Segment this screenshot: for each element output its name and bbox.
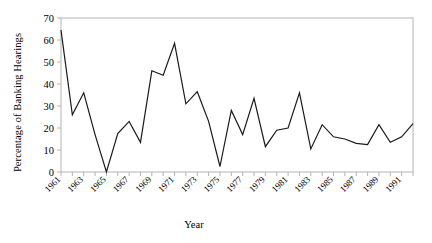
x-tick-label: 1991 [383,174,403,194]
x-tick-label: 1981 [270,174,290,194]
y-tick-label: 10 [44,145,55,156]
x-tick-label: 1975 [202,174,222,194]
y-tick-label: 40 [44,79,55,90]
x-tick-label: 1989 [361,174,381,194]
x-axis-label: Year [0,219,432,230]
x-tick-label: 1987 [338,174,358,194]
y-tick-label: 20 [44,123,55,134]
y-tick-label: 50 [44,57,55,68]
x-tick-label: 1979 [247,174,267,194]
x-tick-label: 1983 [292,174,312,194]
x-tick-label: 1961 [43,174,63,194]
x-tick-label: 1973 [179,174,199,194]
y-axis-label: Percentage of Banking Hearings [12,18,23,188]
x-tick-label: 1965 [88,174,108,194]
x-tick-label: 1963 [65,174,85,194]
y-axis-ticks: 010203040506070 [44,13,62,178]
x-axis-label-text: Year [184,219,203,230]
x-tick-label: 1985 [315,174,335,194]
y-tick-label: 60 [44,35,55,46]
x-tick-label: 1977 [224,174,244,194]
x-tick-label: 1967 [111,174,131,194]
x-tick-label: 1969 [133,174,153,194]
y-tick-label: 30 [44,101,55,112]
chart-figure: Percentage of Banking Hearings 010203040… [0,0,432,243]
y-tick-label: 70 [44,13,55,24]
x-axis-ticks: 1961196319651967196919711973197519771979… [43,172,413,194]
line-chart-plot: 010203040506070 196119631965196719691971… [0,0,432,243]
x-tick-label: 1971 [156,174,176,194]
